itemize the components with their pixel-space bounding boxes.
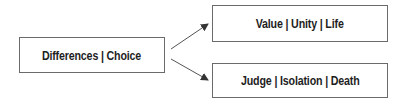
target-node-value-unity-life: Value | Unity | Life <box>212 5 388 42</box>
target-node-label: Judge | Isolation | Death <box>241 73 360 88</box>
source-node: Differences | Choice <box>19 37 165 73</box>
arrow-to-value-unity-life <box>171 24 208 49</box>
target-node-label: Value | Unity | Life <box>256 16 344 31</box>
arrow-to-judge-isolation-death <box>171 59 208 80</box>
target-node-judge-isolation-death: Judge | Isolation | Death <box>212 63 388 98</box>
source-node-label: Differences | Choice <box>42 48 141 63</box>
